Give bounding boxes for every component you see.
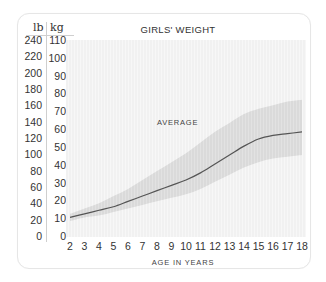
plot-area	[0, 0, 326, 282]
average-annotation: AVERAGE	[157, 118, 198, 127]
x-axis-label: AGE IN YEARS	[0, 258, 326, 267]
